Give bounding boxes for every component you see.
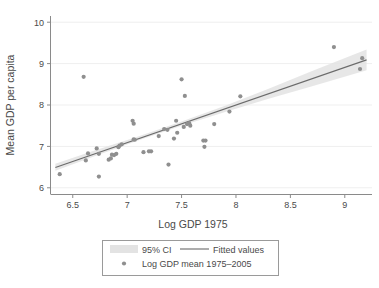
scatter-point [172, 136, 176, 140]
y-axis-title: Mean GDP per capita [4, 54, 16, 155]
y-tick-label: 8 [39, 100, 44, 110]
scatter-point [97, 152, 101, 156]
scatter-point [360, 56, 364, 60]
legend-marker-swatch [122, 261, 126, 265]
scatter-point [97, 175, 101, 179]
y-tick-label: 10 [34, 18, 44, 28]
scatter-point [141, 150, 145, 154]
legend-fitted-label: Fitted values [213, 245, 265, 255]
legend-points-label: Log GDP mean 1975–2005 [142, 259, 251, 269]
scatter-point [227, 110, 231, 114]
scatter-point [165, 128, 169, 132]
y-tick-label: 9 [39, 59, 44, 69]
chart-legend: 95% CI Fitted values Log GDP mean 1975–2… [103, 241, 279, 276]
y-tick-label: 7 [39, 142, 44, 152]
chart-canvas: 678910 6.577.588.59 Log GDP 1975 Mean GD… [0, 0, 379, 288]
scatter-point [166, 163, 170, 167]
x-tick-label: 6.5 [67, 200, 80, 210]
scatter-point [149, 149, 153, 153]
x-tick-label: 9 [342, 200, 347, 210]
scatter-point [174, 119, 178, 123]
scatter-chart-figure: 678910 6.577.588.59 Log GDP 1975 Mean GD… [0, 0, 379, 288]
scatter-point [84, 158, 88, 162]
scatter-point [120, 142, 124, 146]
scatter-point [212, 122, 216, 126]
scatter-point [202, 145, 206, 149]
x-tick-label: 8.5 [284, 200, 297, 210]
y-tick-label: 6 [39, 183, 44, 193]
scatter-point [182, 125, 186, 129]
x-axis-title: Log GDP 1975 [158, 218, 227, 230]
scatter-point [188, 124, 192, 128]
scatter-point [58, 172, 62, 176]
scatter-point [203, 139, 207, 143]
scatter-point [332, 45, 336, 49]
x-tick-label: 7 [125, 200, 130, 210]
scatter-point [157, 134, 161, 138]
scatter-point [133, 138, 137, 142]
x-tick-label: 7.5 [175, 200, 188, 210]
scatter-point [238, 94, 242, 98]
scatter-point [82, 75, 86, 79]
scatter-point [358, 67, 362, 71]
scatter-point [114, 152, 118, 156]
scatter-point [183, 94, 187, 98]
legend-ci-swatch [110, 245, 138, 253]
scatter-point [86, 151, 90, 155]
scatter-point [95, 146, 99, 150]
scatter-point [132, 122, 136, 126]
scatter-point [175, 131, 179, 135]
legend-ci-label: 95% CI [142, 245, 172, 255]
scatter-point [179, 77, 183, 81]
scatter-point [109, 156, 113, 160]
x-tick-label: 8 [233, 200, 238, 210]
